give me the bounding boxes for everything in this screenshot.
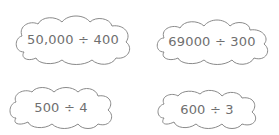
cloud-expression-1: 50,000 ÷ 400 — [10, 12, 136, 66]
cloud-expression-4: 600 ÷ 3 — [154, 88, 260, 130]
expression-text: 600 ÷ 3 — [154, 102, 260, 117]
expression-text: 500 ÷ 4 — [6, 100, 116, 115]
cloud-expression-2: 69000 ÷ 300 — [152, 16, 272, 66]
expression-text: 50,000 ÷ 400 — [10, 32, 136, 47]
expression-text: 69000 ÷ 300 — [152, 34, 272, 49]
cloud-expression-3: 500 ÷ 4 — [6, 84, 116, 130]
